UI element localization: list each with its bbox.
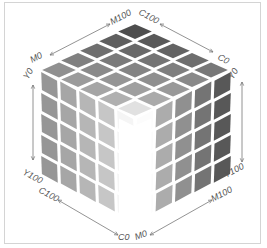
top-face-cell	[175, 53, 209, 68]
top-face-cell	[156, 82, 190, 97]
label-left-y0: Y0	[21, 66, 35, 81]
top-face-cell	[118, 43, 152, 58]
top-face-cell	[118, 63, 152, 78]
top-face-cell	[137, 91, 171, 106]
top-face-cell	[99, 91, 133, 106]
cutaway-column	[119, 118, 151, 223]
top-face-cell	[118, 24, 152, 39]
top-face-cell	[42, 63, 76, 78]
label-bottom-m100: M100	[209, 184, 234, 203]
top-face-cell	[137, 53, 171, 68]
top-face-cell	[99, 34, 133, 49]
cmy-color-cube: M0 M100 C100 C0 Y0 Y100 Y0 Y100 C100 C0 …	[0, 0, 267, 248]
top-face-cell	[137, 34, 171, 49]
label-bottom-c0: C0	[118, 232, 130, 242]
top-face-cell	[118, 82, 152, 97]
top-face-cell	[156, 63, 190, 78]
cube-faces	[41, 24, 231, 223]
top-face-cell	[80, 63, 114, 78]
top-face-cell	[99, 53, 133, 68]
top-face-cell	[80, 82, 114, 97]
label-top-c0: C0	[216, 52, 231, 66]
label-bottom-c100: C100	[37, 185, 61, 204]
top-face-cell	[194, 63, 228, 78]
label-top-m0: M0	[28, 50, 44, 65]
top-face-cell	[137, 72, 171, 87]
label-top-m100: M100	[108, 7, 133, 26]
label-top-c100: C100	[137, 7, 161, 26]
top-face-cell	[156, 43, 190, 58]
top-face-cell	[99, 72, 133, 87]
top-face-cell	[61, 53, 95, 68]
label-bottom-m0: M0	[133, 228, 148, 242]
label-left-y100: Y100	[21, 167, 44, 186]
top-face-cell	[61, 72, 95, 87]
top-face-cell	[80, 43, 114, 58]
top-face-cell	[175, 72, 209, 87]
top-face-cell	[118, 101, 152, 116]
